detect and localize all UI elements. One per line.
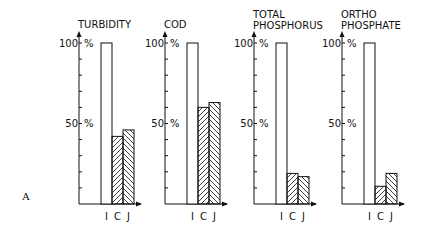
- y-axis-arrow-icon: [252, 31, 257, 37]
- panel-title: PHOSPHORUS: [253, 20, 323, 31]
- y-tick-unit: %: [259, 38, 269, 49]
- y-tick-label: 100: [322, 38, 341, 49]
- y-tick-label: 100: [145, 38, 164, 49]
- y-tick-unit: %: [170, 38, 180, 49]
- x-tick-label: J: [126, 211, 130, 222]
- y-tick-label: 50: [65, 118, 78, 129]
- panel-title: PHOSPHATE: [341, 20, 401, 31]
- bar-c: [287, 173, 298, 204]
- x-tick-label: C: [289, 211, 296, 222]
- bar-j: [298, 177, 309, 204]
- figure-label: A: [22, 190, 30, 202]
- panel-title: ORTHO: [341, 9, 377, 20]
- panel-title: TOTAL: [252, 9, 285, 20]
- bar-i: [187, 43, 198, 204]
- x-tick-label: J: [389, 211, 393, 222]
- bar-c: [375, 186, 386, 204]
- bar-j: [209, 103, 220, 204]
- y-tick-unit: %: [84, 118, 94, 129]
- bar-c: [198, 107, 209, 204]
- y-tick-label: 50: [328, 118, 341, 129]
- panel-ortho-phosphate: ORTHOPHOSPHATE100%50%ICJ: [322, 9, 405, 222]
- bar-c: [112, 136, 123, 204]
- x-tick-label: C: [200, 211, 207, 222]
- y-tick-unit: %: [170, 118, 180, 129]
- y-tick-unit: %: [84, 38, 94, 49]
- y-tick-label: 100: [59, 38, 78, 49]
- bar-j: [123, 130, 134, 204]
- bar-i: [101, 43, 112, 204]
- panel-cod: COD100%50%ICJ: [145, 19, 228, 222]
- x-axis-arrow-icon: [222, 202, 228, 207]
- panel-title: COD: [164, 19, 187, 30]
- y-axis-arrow-icon: [340, 31, 345, 37]
- x-tick-label: I: [191, 211, 194, 222]
- y-tick-label: 50: [151, 118, 164, 129]
- bar-i: [276, 43, 287, 204]
- y-tick-unit: %: [347, 38, 357, 49]
- y-axis-arrow-icon: [163, 31, 168, 37]
- x-axis-arrow-icon: [136, 202, 142, 207]
- y-tick-unit: %: [347, 118, 357, 129]
- y-tick-label: 100: [234, 38, 253, 49]
- figure: A TURBIDITY100%50%ICJCOD100%50%ICJTOTALP…: [0, 0, 432, 235]
- x-tick-label: C: [114, 211, 121, 222]
- x-tick-label: J: [212, 211, 216, 222]
- bar-j: [386, 173, 397, 204]
- x-axis-arrow-icon: [311, 202, 317, 207]
- x-axis-arrow-icon: [399, 202, 405, 207]
- panel-turbidity: TURBIDITY100%50%ICJ: [59, 19, 142, 222]
- y-tick-unit: %: [259, 118, 269, 129]
- panel-title: TURBIDITY: [77, 19, 132, 30]
- x-tick-label: J: [301, 211, 305, 222]
- x-tick-label: I: [280, 211, 283, 222]
- bar-i: [364, 43, 375, 204]
- x-tick-label: I: [368, 211, 371, 222]
- y-tick-label: 50: [240, 118, 253, 129]
- x-tick-label: I: [105, 211, 108, 222]
- panel-total-phosphorus: TOTALPHOSPHORUS100%50%ICJ: [234, 9, 323, 222]
- x-tick-label: C: [377, 211, 384, 222]
- y-axis-arrow-icon: [77, 31, 82, 37]
